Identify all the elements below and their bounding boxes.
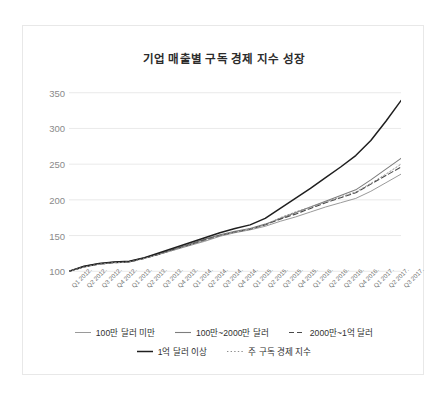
legend-line-swatch	[289, 329, 305, 336]
screenshot-root: 기업 매출별 구독 경제 지수 성장 100150200250300350 Q1…	[0, 0, 444, 411]
y-axis-tick-label: 350	[31, 87, 65, 98]
legend-line-swatch	[227, 348, 243, 355]
legend-item[interactable]: 100만~2000만 달러	[175, 326, 269, 338]
legend-line-swatch	[175, 329, 191, 336]
legend-label: 1억 달러 이상	[158, 345, 208, 357]
legend-line-swatch	[137, 348, 153, 355]
legend-item[interactable]: 주 구독 경제 지수	[227, 345, 311, 357]
series-line	[69, 174, 401, 271]
series-line	[69, 167, 401, 271]
series-lines	[69, 101, 401, 272]
y-axis-tick-label: 150	[31, 230, 65, 241]
legend-label: 주 구독 경제 지수	[248, 345, 311, 357]
chart-legend: 100만 달러 미만100만~2000만 달러2000만~1억 달러 1억 달러…	[23, 326, 425, 364]
x-axis: Q1 2012.Q2 2012.Q3 2012.Q4 2012.Q1 2013.…	[69, 284, 405, 330]
y-axis-tick-label: 100	[31, 266, 65, 277]
y-axis-tick-label: 200	[31, 194, 65, 205]
series-line	[69, 164, 401, 271]
legend-label: 100만 달러 미만	[96, 326, 155, 338]
legend-row-bottom: 1억 달러 이상주 구독 경제 지수	[23, 345, 425, 357]
legend-item[interactable]: 100만 달러 미만	[75, 326, 155, 338]
legend-item[interactable]: 1억 달러 이상	[137, 345, 208, 357]
chart-title: 기업 매출별 구독 경제 지수 성장	[23, 50, 425, 66]
legend-label: 100만~2000만 달러	[196, 326, 269, 338]
gridlines	[69, 93, 401, 272]
y-axis-tick-label: 250	[31, 159, 65, 170]
legend-line-swatch	[75, 329, 91, 336]
legend-row-top: 100만 달러 미만100만~2000만 달러2000만~1억 달러	[23, 326, 425, 338]
legend-label: 2000만~1억 달러	[310, 326, 373, 338]
series-line	[69, 158, 401, 271]
y-axis: 100150200250300350	[27, 82, 65, 282]
line-chart-svg	[69, 82, 401, 282]
series-line	[69, 101, 401, 272]
legend-item[interactable]: 2000만~1억 달러	[289, 326, 373, 338]
chart-card: 기업 매출별 구독 경제 지수 성장 100150200250300350 Q1…	[22, 25, 424, 375]
y-axis-tick-label: 300	[31, 123, 65, 134]
plot-area	[69, 82, 401, 282]
